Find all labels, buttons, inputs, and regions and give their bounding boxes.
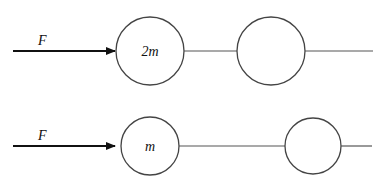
bottom-mass-2 [285,118,341,174]
top-system: F 2m [13,17,373,85]
bottom-force-label: F [37,128,47,143]
top-mass-2 [237,17,305,85]
two-mass-systems-diagram: F 2m F m [0,0,386,189]
top-force-label: F [37,33,47,48]
top-mass-1-label: 2m [141,44,158,59]
bottom-system: F m [13,117,372,175]
bottom-mass-1-label: m [145,139,155,154]
